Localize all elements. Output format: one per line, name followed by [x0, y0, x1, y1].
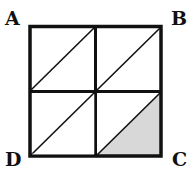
- diagonal-bottom-left: [31, 93, 94, 155]
- diagonal-top-left: [31, 28, 94, 90]
- square-figure: [0, 0, 191, 169]
- diagonal-top-right: [97, 28, 160, 90]
